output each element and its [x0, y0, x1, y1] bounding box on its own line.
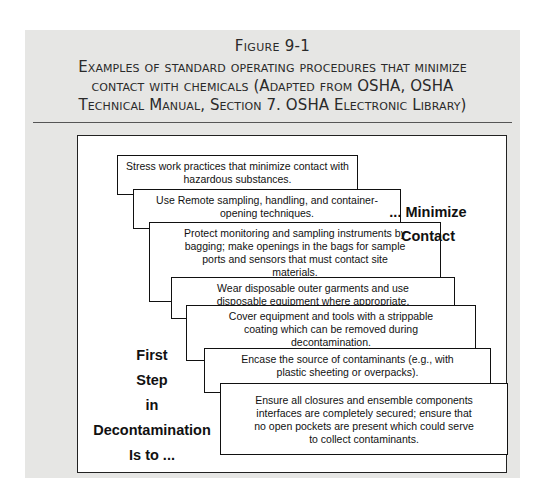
step-text: Stress work practices that minimize cont… — [118, 160, 357, 173]
left-label-line: in — [82, 393, 222, 418]
step-text: Encase the source of contaminants (e.g.,… — [205, 353, 490, 366]
step-box-7: Ensure all closures and ensemble compone… — [220, 383, 508, 455]
right-label-line: Contact — [378, 224, 478, 248]
caption-divider — [33, 122, 512, 123]
step-text: ports and sensors that must contact site — [150, 253, 440, 266]
figure-number: Figure 9-1 — [25, 37, 520, 55]
left-label-line: Step — [82, 368, 222, 393]
step-text: coating which can be removed during — [187, 323, 475, 336]
step-text: Use Remote sampling, handling, and conta… — [134, 194, 400, 207]
step-text: hazardous substances. — [118, 173, 357, 186]
left-label: First Step in Decontamination Is to ... — [82, 343, 222, 468]
step-text: to collect contaminants. — [221, 433, 507, 446]
step-text: no open pockets are present which could … — [221, 420, 507, 433]
step-text: interfaces are completely secured; ensur… — [221, 407, 507, 420]
caption-line: Examples of standard operating procedure… — [30, 58, 515, 77]
step-text: Cover equipment and tools with a strippa… — [187, 310, 475, 323]
caption-line: contact with chemicals (Adapted from OSH… — [30, 77, 515, 96]
step-text: Wear disposable outer garments and use — [172, 282, 454, 295]
right-label-line: ... Minimize — [378, 200, 478, 224]
figure-caption: Examples of standard operating procedure… — [30, 58, 515, 115]
step-text: Ensure all closures and ensemble compone… — [221, 394, 507, 407]
caption-line: Technical Manual, Section 7. OSHA Electr… — [30, 96, 515, 115]
right-label: ... Minimize Contact — [378, 200, 478, 248]
left-label-line: First — [82, 343, 222, 368]
step-text: plastic sheeting or overpacks). — [205, 366, 490, 379]
left-label-line: Is to ... — [82, 443, 222, 468]
left-label-line: Decontamination — [82, 418, 222, 443]
step-text: opening techniques. — [134, 207, 400, 220]
